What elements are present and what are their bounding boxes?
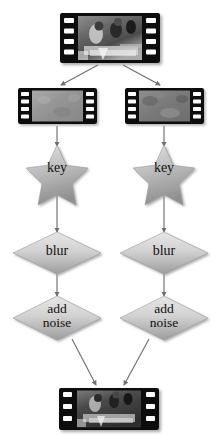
label-layer: key key blur blur add noise add noise [0,0,217,435]
label-left-blur: blur [27,244,87,259]
label-right-add-noise: add noise [129,302,199,330]
label-left-add-noise: add noise [22,302,92,330]
label-right-key: key [134,161,194,176]
label-left-key: key [27,161,87,176]
label-right-blur: blur [134,244,194,259]
